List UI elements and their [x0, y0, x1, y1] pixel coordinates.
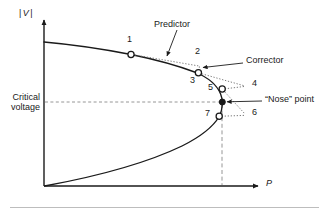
point-label-3: 3 — [190, 76, 195, 86]
point-marker-5[interactable] — [219, 86, 225, 92]
nose-point-leader-arrow — [227, 101, 262, 102]
corrector-segment-6-to-7 — [222, 115, 244, 116]
point-label-7: 7 — [205, 109, 210, 119]
corrector-label: Corrector — [246, 56, 284, 66]
point-marker-3[interactable] — [195, 70, 201, 76]
predictor-segments-group — [132, 55, 245, 115]
critical-voltage-label-line2: voltage — [0, 103, 40, 113]
y-axis-symbol: V — [23, 8, 29, 18]
pv-curve-group — [44, 42, 222, 186]
reference-lines-group — [45, 102, 222, 185]
point-marker-1[interactable] — [128, 51, 134, 57]
predictor-leader-arrow — [167, 30, 177, 56]
point-marker-7[interactable] — [216, 113, 222, 119]
point-label-5: 5 — [208, 83, 213, 93]
predictor-label: Predictor — [154, 20, 190, 30]
plot-canvas — [0, 0, 329, 220]
bottom-separator-rule — [10, 207, 319, 208]
pv-curve-lower-branch — [45, 102, 223, 186]
y-axis-bar-left: | — [19, 8, 21, 18]
y-axis-bar-right: | — [30, 8, 32, 18]
predictor-segment-1-to-2 — [132, 55, 199, 67]
pv-nose-curve-figure: |V| P Critical voltage Predictor Correct… — [0, 0, 329, 220]
leader-lines-group — [167, 30, 262, 102]
nose-point-marker[interactable] — [219, 99, 225, 105]
y-axis-label: |V| — [19, 9, 33, 19]
point-label-2: 2 — [195, 47, 200, 57]
point-label-1: 1 — [127, 35, 132, 45]
critical-voltage-label: Critical voltage — [0, 93, 40, 112]
corrector-segment-4-to-5 — [225, 87, 244, 89]
x-axis-label: P — [266, 179, 272, 189]
point-label-4: 4 — [252, 79, 257, 89]
corrector-leader-arrow — [203, 63, 243, 68]
nose-point-label: “Nose” point — [265, 95, 314, 105]
predictor-segment-3-to-4 — [199, 73, 245, 86]
point-label-6: 6 — [252, 108, 257, 118]
